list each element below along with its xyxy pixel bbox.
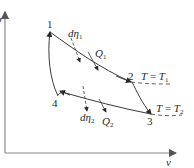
x-axis-label: v — [166, 157, 171, 168]
q1-label: Q1 — [95, 48, 106, 63]
point-4-label: 4 — [52, 98, 58, 109]
point-2-label: 2 — [128, 71, 134, 82]
point-3-label: 3 — [147, 116, 153, 127]
q2-arrow — [99, 99, 106, 112]
d-eta-2-label: dη2 — [80, 112, 94, 127]
pv-diagram: p v 1 2 3 4 dη1 Q1 dη2 Q2 T = T1 T = T2 — [0, 0, 194, 168]
isotherm-t1-label: T = T1 — [141, 71, 168, 86]
process-3-4 — [58, 91, 151, 114]
point-1-label: 1 — [47, 19, 53, 30]
process-4-1 — [49, 32, 58, 96]
d-eta-1-label: dη1 — [68, 28, 82, 43]
q2-label: Q2 — [102, 116, 113, 131]
isotherm-t2-label: T = T2 — [156, 103, 183, 118]
y-axis-label: p — [0, 14, 2, 25]
process-2-3 — [132, 82, 151, 114]
